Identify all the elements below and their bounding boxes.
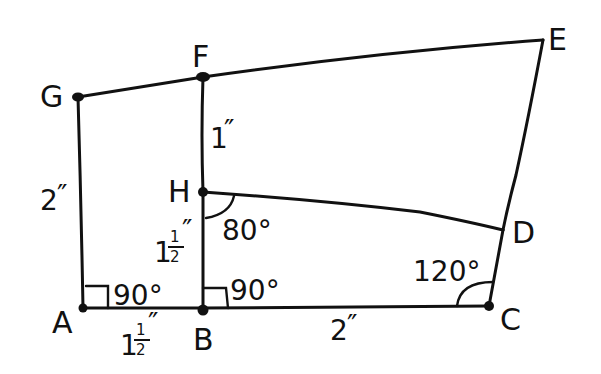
angle-label-a: 90°: [113, 279, 163, 312]
length-label-ab: 1 1 2 ″: [120, 307, 158, 362]
svg-text:″: ″: [347, 309, 357, 342]
segment-dc: [489, 230, 503, 306]
svg-text:″: ″: [57, 179, 67, 212]
length-label-fh: 1 ″: [210, 114, 234, 155]
point-label-g: G: [40, 79, 63, 114]
geometry-diagram: G F E H D A B C 2 ″ 1 ″ 1 1 2 ″ 1 1 2 ″ …: [0, 0, 601, 374]
svg-text:1: 1: [170, 228, 180, 246]
segment-gf: [78, 77, 203, 97]
length-label-hb: 1 1 2 ″: [154, 214, 192, 269]
segment-ed: [503, 40, 543, 230]
vertex-dot-h: [198, 187, 208, 197]
point-label-d: D: [512, 215, 535, 250]
svg-text:1: 1: [136, 321, 146, 339]
svg-text:″: ″: [224, 114, 234, 147]
point-label-h: H: [168, 174, 191, 209]
angle-label-b: 90°: [230, 274, 280, 307]
point-label-f: F: [192, 39, 209, 74]
right-angle-mark-b: [203, 288, 228, 308]
svg-text:2: 2: [40, 184, 58, 217]
svg-text:″: ″: [182, 214, 192, 247]
svg-text:2: 2: [170, 248, 180, 266]
length-label-ag: 2 ″: [40, 179, 67, 217]
vertex-dot-g: [72, 93, 84, 102]
vertex-dot-b: [198, 305, 209, 316]
vertex-dot-a: [79, 304, 88, 313]
svg-text:2: 2: [330, 314, 348, 347]
angle-label-c: 120°: [413, 255, 480, 288]
segment-fh: [202, 77, 203, 192]
point-label-c: C: [500, 302, 521, 337]
angle-label-h: 80°: [222, 214, 272, 247]
right-angle-mark-a: [86, 286, 108, 308]
segment-fe: [203, 40, 543, 77]
svg-text:2: 2: [136, 341, 146, 359]
point-label-e: E: [548, 22, 567, 57]
vertex-dot-c: [484, 301, 494, 311]
point-label-b: B: [193, 322, 214, 357]
point-label-a: A: [52, 305, 73, 340]
segment-ag: [78, 97, 83, 308]
length-label-bc: 2 ″: [330, 309, 357, 347]
